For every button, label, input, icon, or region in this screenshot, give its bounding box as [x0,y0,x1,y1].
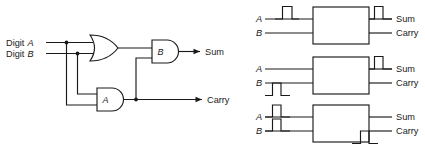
case-2-input-label-b: B [256,78,262,88]
junction-dot-b [76,52,80,56]
case-3-block-diagram: A B Sum Carry [255,105,419,144]
case-2-block-diagram: A B Sum Carry [255,57,419,96]
case-3-output-label-sum: Sum [396,112,415,122]
case-3-input-label-a: A [255,112,262,122]
sum-arrowhead [194,49,201,55]
case-3-input-pulse-b [265,119,290,131]
wire-a-branch-to-and [67,43,98,106]
logic-circuit-diagram: DigitA DigitB A [6,35,230,111]
case-1-block-diagram: A B Sum Carry [255,7,419,45]
junction-dot-a [65,41,69,45]
case-2-input-label-a: A [255,64,262,74]
case-1-input-label-a: A [255,14,262,24]
output-label-sum: Sum [205,47,224,57]
case-2-output-label-carry: Carry [396,78,419,88]
and-gate-b-label: B [157,47,163,57]
case-1-output-label-sum: Sum [396,14,415,24]
input-label-digit-a: DigitA [6,38,34,48]
case-2-output-pulse-sum [369,57,392,70]
and-gate-b [152,40,179,63]
case-1-block [313,7,369,44]
case-2-output-label-sum: Sum [396,64,415,74]
case-2-block [313,57,369,94]
case-1-output-label-carry: Carry [396,28,419,38]
case-1-input-pulse-a [275,7,299,20]
carry-arrowhead [196,97,203,103]
and-gate-a [97,88,124,111]
half-adder-figure: DigitA DigitB A [0,0,425,151]
and-gate-a-label: A [101,95,108,105]
input-label-digit-b: DigitB [6,49,34,59]
output-label-carry: Carry [207,95,230,105]
case-3-input-label-b: B [256,126,262,136]
case-1-output-pulse-sum [369,7,392,20]
case-3-output-label-carry: Carry [396,126,419,136]
or-gate [90,35,118,61]
junction-dot-carry [134,98,138,102]
case-1-input-label-b: B [256,28,262,38]
wire-and-a-to-gate-b [136,58,152,100]
case-3-input-pulse-a [265,105,290,117]
case-2-input-pulse-b [265,83,290,96]
